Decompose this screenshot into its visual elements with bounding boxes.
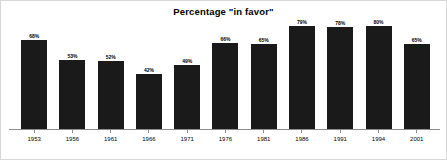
tick-mark: [378, 129, 379, 133]
bar-rect: [327, 27, 353, 129]
x-axis-tick: 1956: [53, 129, 91, 142]
bar-group: 49%: [168, 19, 206, 129]
bar-rect: [251, 44, 277, 129]
x-axis-tick-label: 1991: [334, 136, 347, 142]
x-axis-tick: 1953: [15, 129, 53, 142]
bar-value-label: 49%: [182, 58, 192, 64]
bar-value-label: 53%: [67, 53, 77, 59]
bar-rect: [212, 43, 238, 129]
bar-group: 68%: [15, 19, 53, 129]
x-axis-tick: 1976: [206, 129, 244, 142]
bar-rect: [289, 26, 315, 129]
tick-mark: [110, 129, 111, 133]
bar-value-label: 65%: [412, 37, 422, 43]
bar-group: 42%: [130, 19, 168, 129]
x-axis-tick: 1994: [359, 129, 397, 142]
x-axis-tick-label: 1986: [295, 136, 308, 142]
x-axis-tick-label: 1981: [257, 136, 270, 142]
bar-group: 79%: [283, 19, 321, 129]
x-axis-tick: 1961: [92, 129, 130, 142]
bar-group: 52%: [92, 19, 130, 129]
chart-title: Percentage "in favor": [1, 6, 446, 17]
x-axis-tick-label: 1976: [219, 136, 232, 142]
bar-value-label: 79%: [297, 19, 307, 25]
plot-area: 68% 53% 52% 42% 49% 66% 65% 79%: [15, 19, 436, 129]
tick-mark: [416, 129, 417, 133]
x-axis-tick-label: 1966: [142, 136, 155, 142]
bar-group: 80%: [359, 19, 397, 129]
bar-group: 65%: [398, 19, 436, 129]
x-axis-tick: 1991: [321, 129, 359, 142]
x-axis-tick-label: 1956: [66, 136, 79, 142]
bar-rect: [98, 61, 124, 129]
x-axis-tick: 1971: [168, 129, 206, 142]
x-axis-tick-label: 1994: [372, 136, 385, 142]
tick-mark: [34, 129, 35, 133]
tick-mark: [187, 129, 188, 133]
bar-value-label: 42%: [144, 67, 154, 73]
tick-mark: [263, 129, 264, 133]
bar-rect: [174, 65, 200, 129]
bar-group: 65%: [245, 19, 283, 129]
tick-mark: [148, 129, 149, 133]
x-axis-tick: 1966: [130, 129, 168, 142]
tick-mark: [72, 129, 73, 133]
bar-chart-figure: Percentage "in favor" 68% 53% 52% 42% 49…: [0, 0, 447, 160]
x-axis-tick: 1981: [245, 129, 283, 142]
x-axis-tick-label: 1961: [104, 136, 117, 142]
bar-group: 66%: [206, 19, 244, 129]
bar-value-label: 80%: [374, 19, 384, 25]
tick-mark: [225, 129, 226, 133]
bar-group: 53%: [53, 19, 91, 129]
bar-rect: [59, 60, 85, 129]
bar-value-label: 52%: [106, 54, 116, 60]
bar-rect: [366, 26, 392, 129]
x-axis-tick-row: 1953 1956 1961 1966 1971 1976 1981 1986: [15, 129, 436, 142]
x-axis-tick-label: 1971: [181, 136, 194, 142]
bar-rect: [136, 74, 162, 129]
tick-mark: [340, 129, 341, 133]
x-axis-tick: 1986: [283, 129, 321, 142]
x-axis-tick-label: 1953: [27, 136, 40, 142]
bar-value-label: 68%: [29, 33, 39, 39]
x-axis-tick: 2001: [398, 129, 436, 142]
x-axis-tick-label: 2001: [410, 136, 423, 142]
bar-value-label: 65%: [259, 37, 269, 43]
bar-group: 78%: [321, 19, 359, 129]
tick-mark: [301, 129, 302, 133]
bar-value-label: 78%: [335, 20, 345, 26]
bar-value-label: 66%: [220, 36, 230, 42]
bar-rect: [21, 40, 47, 129]
bar-rect: [404, 44, 430, 129]
